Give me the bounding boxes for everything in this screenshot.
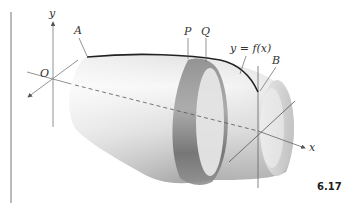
point-p-label: P [183, 25, 192, 38]
band-inner-face [196, 68, 224, 176]
x-axis-left [27, 72, 75, 85]
origin-label: O [40, 67, 49, 80]
y-axis-label: y [48, 7, 56, 20]
x-axis-label: x [309, 141, 316, 154]
point-a-leader [79, 38, 87, 56]
point-q-label: Q [201, 25, 210, 38]
curve-label: y = f(x) [229, 42, 271, 55]
figure-number: 6.17 [317, 181, 342, 192]
solid-of-revolution-figure: y x O A P Q y = f(x) B 6.17 [0, 0, 352, 203]
point-a-label: A [73, 24, 82, 37]
point-b-label: B [271, 54, 280, 67]
